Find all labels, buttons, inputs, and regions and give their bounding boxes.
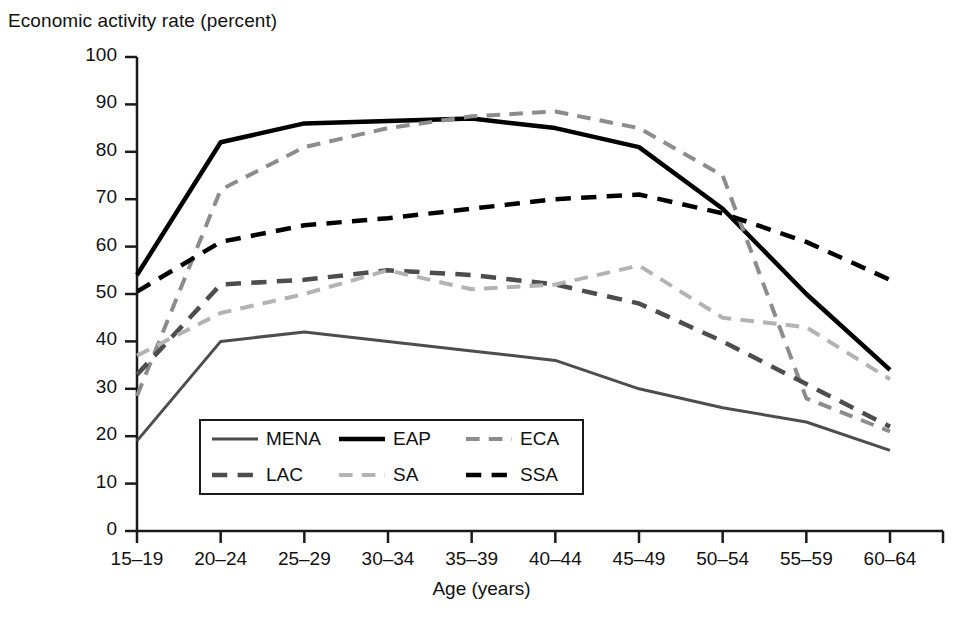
plot-area	[0, 0, 963, 617]
legend-swatch-lac-icon	[211, 468, 259, 482]
x-tick-label: 60–64	[845, 548, 935, 570]
series-line-ssa	[137, 195, 890, 292]
legend-label-eap: EAP	[393, 428, 431, 450]
y-tick-label: 70	[61, 186, 117, 208]
economic-activity-rate-chart: Economic activity rate (percent) 0102030…	[0, 0, 963, 617]
y-tick-label: 30	[61, 376, 117, 398]
legend-swatch-eap-icon	[338, 432, 386, 446]
y-axis-ticks	[125, 57, 137, 531]
x-tick-label: 55–59	[761, 548, 851, 570]
legend-label-mena: MENA	[266, 428, 321, 450]
legend-entry-mena: MENA	[201, 428, 328, 450]
x-tick-label: 25–29	[259, 548, 349, 570]
x-axis-title: Age (years)	[0, 578, 963, 600]
legend-swatch-ssa-icon	[465, 468, 513, 482]
series-line-sa	[137, 266, 890, 380]
y-tick-label: 60	[61, 234, 117, 256]
y-tick-label: 50	[61, 281, 117, 303]
legend-label-sa: SA	[393, 464, 418, 486]
x-tick-label: 20–24	[176, 548, 266, 570]
legend-swatch-eca-icon	[465, 432, 513, 446]
legend-entry-eap: EAP	[328, 428, 455, 450]
legend-entry-eca: ECA	[455, 428, 582, 450]
y-tick-label: 80	[61, 139, 117, 161]
series-lines	[137, 112, 890, 451]
series-line-eap	[137, 119, 890, 370]
y-tick-label: 90	[61, 91, 117, 113]
series-line-lac	[137, 270, 890, 426]
legend-label-ssa: SSA	[520, 464, 558, 486]
legend-entry-ssa: SSA	[455, 464, 582, 486]
x-tick-label: 40–44	[510, 548, 600, 570]
legend-entry-sa: SA	[328, 464, 455, 486]
x-tick-label: 35–39	[427, 548, 517, 570]
y-tick-label: 20	[61, 423, 117, 445]
chart-legend: MENAEAPECALACSASSA	[199, 419, 584, 495]
x-tick-label: 30–34	[343, 548, 433, 570]
legend-swatch-sa-icon	[338, 468, 386, 482]
legend-entry-lac: LAC	[201, 464, 328, 486]
x-tick-label: 15–19	[92, 548, 182, 570]
legend-swatch-mena-icon	[211, 432, 259, 446]
series-line-eca	[137, 112, 890, 432]
legend-label-eca: ECA	[520, 428, 559, 450]
y-tick-label: 100	[61, 44, 117, 66]
x-tick-label: 45–49	[594, 548, 684, 570]
x-tick-label: 50–54	[678, 548, 768, 570]
y-tick-label: 10	[61, 471, 117, 493]
x-axis-ticks	[137, 531, 943, 543]
legend-label-lac: LAC	[266, 464, 303, 486]
y-tick-label: 40	[61, 328, 117, 350]
y-tick-label: 0	[61, 518, 117, 540]
